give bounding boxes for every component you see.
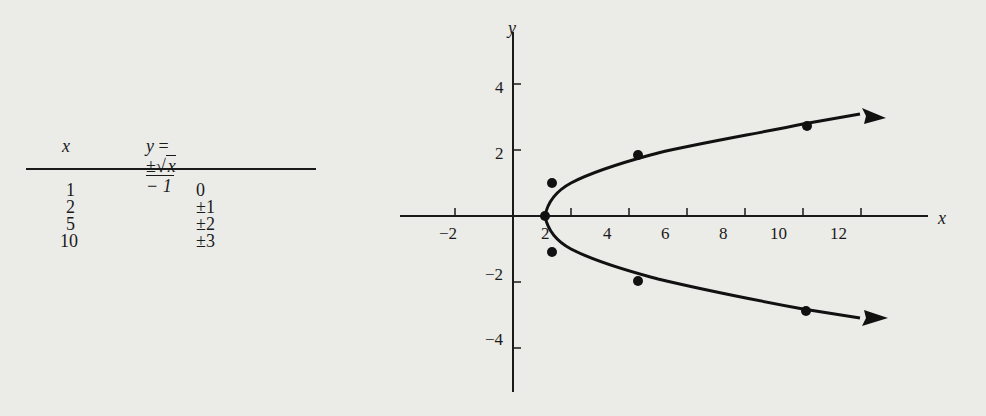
y-tick-label: 4 xyxy=(495,78,504,98)
upper-branch xyxy=(545,114,860,216)
x-ticks xyxy=(455,208,861,216)
parabola-graph xyxy=(0,0,986,416)
x-tick-label: 10 xyxy=(770,224,787,244)
x-tick-label: 4 xyxy=(603,224,612,244)
x-axis-label: x xyxy=(938,208,946,228)
arrow-down-right-icon xyxy=(862,310,888,326)
y-tick-label: −4 xyxy=(485,330,503,350)
arrow-up-right-icon xyxy=(862,108,886,124)
y-tick-label: −2 xyxy=(485,265,503,285)
y-axis-label: y xyxy=(508,18,516,38)
x-tick-label: −2 xyxy=(439,224,457,244)
x-tick-label: 6 xyxy=(661,224,670,244)
x-tick-label: 12 xyxy=(830,224,847,244)
x-tick-label: 8 xyxy=(719,224,728,244)
y-tick-label: 2 xyxy=(495,144,504,164)
x-tick-label: 2 xyxy=(541,224,550,244)
lower-branch xyxy=(545,216,860,318)
